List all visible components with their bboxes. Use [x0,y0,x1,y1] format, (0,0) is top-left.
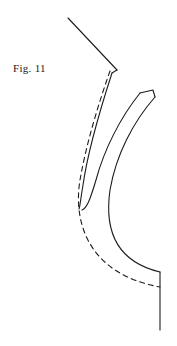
band-upper-cap [140,90,155,97]
dashed-reference-curve [78,71,160,287]
upper-vertex-return-line [112,70,117,73]
band-outer-edge [79,73,112,209]
figure-drawing-canvas [0,0,177,346]
figure-container: Fig. 11 [0,0,177,346]
figure-label: Fig. 11 [13,62,46,75]
upper-straight-line [68,18,117,70]
drawing-layer [68,18,160,330]
band-inner-edge [82,93,140,210]
band-outer-lower-edge [109,97,160,272]
